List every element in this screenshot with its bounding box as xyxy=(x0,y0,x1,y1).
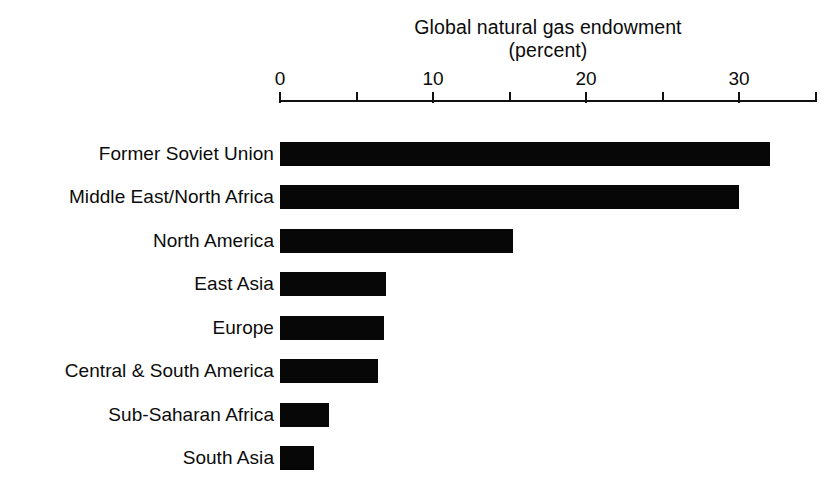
bar-row: Middle East/North Africa xyxy=(0,176,840,220)
category-label-europe: Europe xyxy=(212,317,274,339)
category-label-middle-east-north-africa: Middle East/North Africa xyxy=(69,186,274,208)
bar-row: Sub-Saharan Africa xyxy=(0,393,840,437)
bar-row: Former Soviet Union xyxy=(0,132,840,176)
category-label-central-south-america: Central & South America xyxy=(65,360,274,382)
x-axis-tick-15 xyxy=(509,92,511,102)
bar-row: East Asia xyxy=(0,263,840,307)
x-axis-tick-30 xyxy=(738,92,740,103)
x-axis-tick-0 xyxy=(279,92,281,103)
chart-title: Global natural gas endowment xyxy=(280,16,816,39)
x-axis-label-10: 10 xyxy=(422,68,443,90)
x-axis-tick-25 xyxy=(662,92,664,102)
category-label-former-soviet-union: Former Soviet Union xyxy=(99,143,274,165)
bar-former-soviet-union xyxy=(280,142,770,166)
x-axis-line xyxy=(280,100,816,102)
bar-row: North America xyxy=(0,219,840,263)
x-axis-tick-5 xyxy=(356,92,358,102)
bar-sub-saharan-africa xyxy=(280,403,329,427)
bar-central-south-america xyxy=(280,359,378,383)
bar-rows: Former Soviet UnionMiddle East/North Afr… xyxy=(0,132,840,480)
bar-middle-east-north-africa xyxy=(280,185,739,209)
x-axis-tick-10 xyxy=(432,92,434,103)
category-label-north-america: North America xyxy=(153,230,274,252)
x-axis-label-0: 0 xyxy=(275,68,286,90)
x-axis-label-20: 20 xyxy=(575,68,596,90)
bar-row: Europe xyxy=(0,306,840,350)
bar-row: South Asia xyxy=(0,437,840,481)
bar-east-asia xyxy=(280,272,386,296)
x-axis-tick-35 xyxy=(815,92,817,102)
bar-north-america xyxy=(280,229,513,253)
bar-europe xyxy=(280,316,384,340)
x-axis xyxy=(0,92,840,108)
bar-row: Central & South America xyxy=(0,350,840,394)
category-label-sub-saharan-africa: Sub-Saharan Africa xyxy=(108,404,274,426)
category-label-east-asia: East Asia xyxy=(194,273,274,295)
x-axis-label-30: 30 xyxy=(728,68,749,90)
bar-south-asia xyxy=(280,446,314,470)
bar-chart: Global natural gas endowment (percent) 0… xyxy=(0,0,840,497)
category-label-south-asia: South Asia xyxy=(183,447,274,469)
x-axis-tick-20 xyxy=(585,92,587,103)
chart-subtitle: (percent) xyxy=(280,39,816,62)
chart-title-block: Global natural gas endowment (percent) xyxy=(280,16,816,62)
x-axis-tick-labels: 0102030 xyxy=(0,68,840,94)
